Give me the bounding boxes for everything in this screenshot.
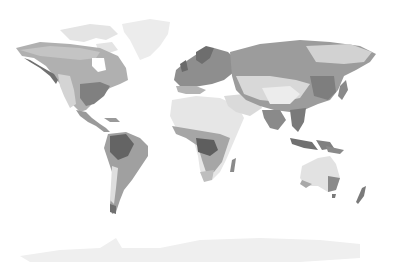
- world-map-svg: [0, 0, 393, 277]
- antarctica: [20, 238, 360, 262]
- new-zealand: [356, 186, 366, 204]
- central-america: [76, 110, 120, 132]
- greenland: [122, 19, 170, 60]
- madagascar: [230, 158, 236, 172]
- europe: [174, 46, 236, 94]
- south-america: [104, 132, 148, 214]
- asia: [230, 40, 376, 112]
- australia: [300, 156, 340, 198]
- north-america: [16, 42, 128, 112]
- world-map: [0, 0, 393, 277]
- southeast-asia: [262, 108, 344, 154]
